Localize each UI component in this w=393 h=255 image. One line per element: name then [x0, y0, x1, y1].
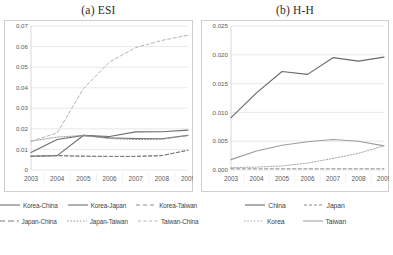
chart-canvas-hh: 0.0000.0050.0100.0150.0200.0252003200420… — [201, 20, 389, 192]
svg-text:0.020: 0.020 — [213, 51, 229, 58]
legend-item-japan-taiwan[interactable]: Japan-Taiwan — [67, 217, 128, 225]
svg-text:0.01: 0.01 — [16, 146, 29, 153]
panel-hh: (b) H-H 0.0000.0050.0100.0150.0200.02520… — [197, 0, 393, 255]
legend-label: Korea-China — [23, 202, 58, 209]
legend-row: Korea-China Korea-Japan Korea-Taiwan — [4, 197, 193, 213]
svg-text:2009: 2009 — [181, 175, 193, 182]
legend-line-swatch — [303, 217, 323, 225]
legend-label: China — [268, 202, 285, 209]
svg-text:0.005: 0.005 — [213, 137, 229, 144]
legend-item-korea-china[interactable]: Korea-China — [0, 201, 58, 209]
svg-text:0.03: 0.03 — [16, 104, 29, 111]
svg-text:2003: 2003 — [224, 175, 239, 182]
legend-line-swatch — [67, 217, 87, 225]
legend-line-swatch — [245, 201, 265, 209]
svg-text:2008: 2008 — [155, 175, 170, 182]
legend-item-korea[interactable]: Korea — [244, 217, 285, 225]
panel-title-hh: (b) H-H — [197, 0, 393, 20]
legend-item-korea-taiwan[interactable]: Korea-Taiwan — [136, 201, 197, 209]
svg-text:2007: 2007 — [326, 175, 341, 182]
svg-text:0.025: 0.025 — [213, 22, 229, 29]
panel-esi: (a) ESI 00.010.020.030.040.050.060.07200… — [0, 0, 197, 255]
svg-text:0.07: 0.07 — [16, 22, 29, 29]
svg-text:2004: 2004 — [249, 175, 264, 182]
legend-line-swatch — [68, 201, 88, 209]
svg-text:2006: 2006 — [300, 175, 315, 182]
legend-row: China Japan — [201, 197, 389, 213]
svg-text:0.02: 0.02 — [16, 125, 29, 132]
svg-text:2006: 2006 — [102, 175, 117, 182]
legend-label: Korea-Japan — [91, 202, 127, 209]
svg-text:0.010: 0.010 — [213, 109, 229, 116]
panel-title-esi: (a) ESI — [0, 0, 197, 20]
legend-item-korea-japan[interactable]: Korea-Japan — [68, 201, 127, 209]
legend-line-swatch — [136, 201, 156, 209]
legend-line-swatch — [304, 201, 324, 209]
legend-label: Taiwan — [326, 218, 347, 225]
legend-line-swatch — [0, 217, 19, 225]
legend-line-swatch — [244, 217, 264, 225]
legend-label: Japan-Taiwan — [90, 218, 128, 225]
plot-area-hh: 0.0000.0050.0100.0150.0200.0252003200420… — [201, 20, 389, 192]
legend-item-taiwan-china[interactable]: Taiwan-China — [138, 217, 199, 225]
svg-text:0.05: 0.05 — [16, 63, 29, 70]
legend-line-swatch — [0, 201, 20, 209]
svg-text:2005: 2005 — [76, 175, 91, 182]
svg-text:0.06: 0.06 — [16, 43, 29, 50]
svg-text:0.015: 0.015 — [213, 80, 229, 87]
svg-text:2003: 2003 — [24, 175, 39, 182]
svg-text:2008: 2008 — [351, 175, 366, 182]
legend-label: Korea-Taiwan — [159, 202, 197, 209]
legend-row: Korea Taiwan — [201, 213, 389, 229]
svg-text:2004: 2004 — [50, 175, 65, 182]
legend-item-japan-china[interactable]: Japan-China — [0, 217, 57, 225]
svg-text:2005: 2005 — [275, 175, 290, 182]
legend-item-taiwan[interactable]: Taiwan — [303, 217, 347, 225]
plot-area-esi: 00.010.020.030.040.050.060.0720032004200… — [4, 20, 193, 192]
legend-label: Japan — [327, 202, 345, 209]
figure-container: (a) ESI 00.010.020.030.040.050.060.07200… — [0, 0, 393, 255]
svg-text:2009: 2009 — [377, 175, 389, 182]
legend-row: Japan-China Japan-Taiwan Taiwan-China — [4, 213, 193, 229]
svg-text:2007: 2007 — [129, 175, 144, 182]
legend-item-china[interactable]: China — [245, 201, 285, 209]
svg-text:0.000: 0.000 — [213, 166, 229, 173]
legend-label: Japan-China — [22, 218, 57, 225]
legend-label: Korea — [267, 218, 285, 225]
legend-line-swatch — [138, 217, 158, 225]
svg-text:0.04: 0.04 — [16, 84, 29, 91]
legend-esi: Korea-China Korea-Japan Korea-Taiwan Jap… — [4, 192, 193, 229]
legend-item-japan[interactable]: Japan — [304, 201, 345, 209]
svg-text:0: 0 — [25, 166, 29, 173]
legend-label: Taiwan-China — [161, 218, 199, 225]
chart-canvas-esi: 00.010.020.030.040.050.060.0720032004200… — [4, 20, 193, 192]
legend-hh: China Japan Korea Taiwan — [201, 192, 389, 229]
